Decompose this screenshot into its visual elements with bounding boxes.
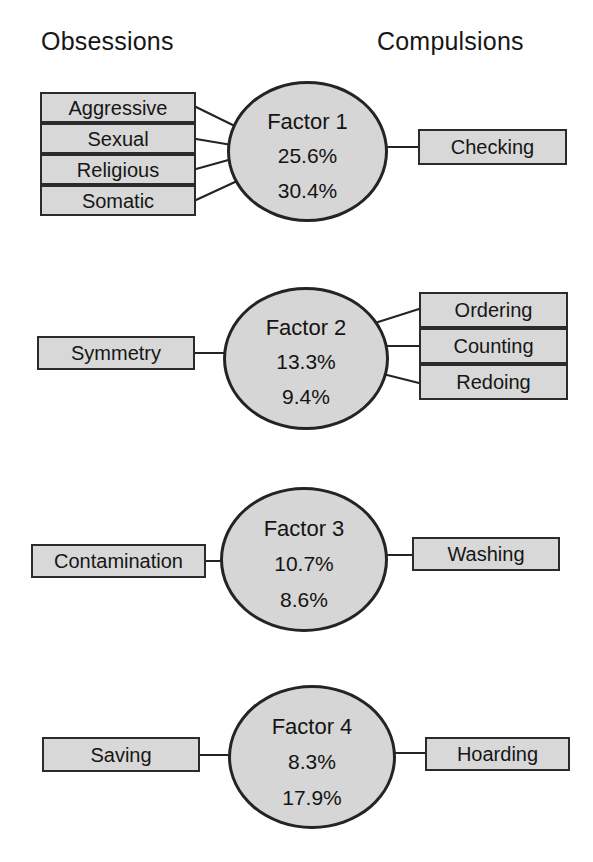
obsession-label: Contamination <box>54 551 183 571</box>
factor-circle-2[interactable]: Factor 2 13.3% 9.4% <box>223 287 389 430</box>
compulsion-box-checking[interactable]: Checking <box>418 129 567 165</box>
compulsion-label: Ordering <box>455 300 533 320</box>
connector-religious-factor1 <box>196 159 232 169</box>
obsession-label: Saving <box>90 745 151 765</box>
compulsion-label: Counting <box>453 336 533 356</box>
obsession-label: Symmetry <box>71 343 161 363</box>
column-header-compulsions: Compulsions <box>377 27 524 56</box>
factor-title: Factor 2 <box>266 317 347 339</box>
obsession-box-sexual[interactable]: Sexual <box>40 123 196 154</box>
factor-title: Factor 3 <box>264 518 345 540</box>
compulsion-box-redoing[interactable]: Redoing <box>419 364 568 400</box>
factor-percent-obsessions: 25.6% <box>278 145 338 166</box>
obsession-box-contamination[interactable]: Contamination <box>31 544 206 578</box>
factor-percent-obsessions: 13.3% <box>276 351 336 372</box>
compulsion-label: Hoarding <box>457 744 538 764</box>
factor-percent-compulsions: 8.6% <box>280 589 328 610</box>
obsession-box-religious[interactable]: Religious <box>40 154 196 185</box>
compulsion-box-counting[interactable]: Counting <box>419 328 568 364</box>
obsession-box-saving[interactable]: Saving <box>42 737 200 772</box>
column-header-obsessions: Obsessions <box>41 27 174 56</box>
factor-percent-compulsions: 17.9% <box>282 787 342 808</box>
compulsion-label: Redoing <box>456 372 531 392</box>
connector-factor2-ordering <box>375 309 419 323</box>
factor-title: Factor 4 <box>272 716 353 738</box>
obsession-box-somatic[interactable]: Somatic <box>40 185 196 216</box>
obsession-label: Aggressive <box>69 98 168 118</box>
factor-percent-compulsions: 9.4% <box>282 386 330 407</box>
compulsion-box-hoarding[interactable]: Hoarding <box>425 737 570 771</box>
compulsion-box-ordering[interactable]: Ordering <box>419 292 568 328</box>
obsession-box-symmetry[interactable]: Symmetry <box>37 336 195 370</box>
compulsion-label: Checking <box>451 137 534 157</box>
factor-circle-3[interactable]: Factor 3 10.7% 8.6% <box>220 487 388 632</box>
factor-title: Factor 1 <box>267 111 348 133</box>
compulsion-label: Washing <box>447 544 524 564</box>
obsession-box-aggressive[interactable]: Aggressive <box>40 92 196 123</box>
factor-circle-1[interactable]: Factor 1 25.6% 30.4% <box>227 81 388 222</box>
factor-percent-compulsions: 30.4% <box>278 180 338 201</box>
factor-percent-obsessions: 8.3% <box>288 751 336 772</box>
factor-percent-obsessions: 10.7% <box>274 553 334 574</box>
obsession-label: Religious <box>77 160 159 180</box>
obsession-label: Somatic <box>82 191 154 211</box>
factor-structure-diagram: Obsessions Compulsions Aggressive Sexual… <box>0 0 593 862</box>
compulsion-box-washing[interactable]: Washing <box>412 537 560 571</box>
factor-circle-4[interactable]: Factor 4 8.3% 17.9% <box>228 685 396 829</box>
obsession-label: Sexual <box>87 129 148 149</box>
